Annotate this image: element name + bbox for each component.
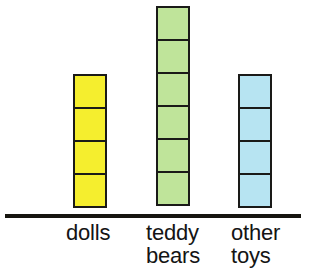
bar-unit xyxy=(238,173,272,208)
bar-unit xyxy=(156,105,190,140)
bar-unit xyxy=(73,107,107,142)
x-axis-label-dolls: dolls xyxy=(66,221,110,244)
bar-chart: dolls teddy bears other toys xyxy=(0,0,319,268)
bar-dolls xyxy=(73,74,107,214)
x-axis-label-teddy-bears: teddy bears xyxy=(146,221,200,267)
bar-unit xyxy=(238,107,272,142)
bar-unit xyxy=(156,138,190,173)
bar-unit xyxy=(73,140,107,175)
bar-unit xyxy=(238,74,272,109)
x-axis-baseline xyxy=(5,214,301,218)
bar-unit xyxy=(238,140,272,175)
bar-teddy-bears xyxy=(156,6,190,216)
bar-unit xyxy=(156,171,190,206)
bar-unit xyxy=(73,173,107,208)
x-axis-label-other-toys: other toys xyxy=(231,221,280,267)
bar-other-toys xyxy=(238,74,272,214)
bar-unit xyxy=(73,74,107,109)
bar-unit xyxy=(156,39,190,74)
bar-unit xyxy=(156,6,190,41)
bar-unit xyxy=(156,72,190,107)
